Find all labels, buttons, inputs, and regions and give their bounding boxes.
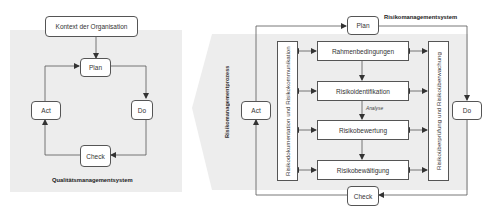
process-step-risikobewertung: Risikobewertung — [317, 120, 409, 140]
right-do-label: Do — [463, 107, 471, 114]
left-act-label: Act — [41, 107, 50, 114]
process-vertical-label: Risikomanagementprozess — [221, 60, 233, 144]
process-step-label: Risikobewertung — [339, 127, 387, 134]
right-diagram-title: Risikomanagementsystem — [384, 14, 457, 20]
process-step-rahmenbedingungen: Rahmenbedingungen — [317, 41, 409, 61]
process-step-label: Risikoidentifikation — [336, 88, 390, 95]
process-step-label: Risikobewältigung — [337, 167, 389, 174]
right-check-label: Check — [354, 193, 372, 200]
process-step-risikoidentifikation: Risikoidentifikation — [317, 81, 409, 101]
left-side-box-label: Risikodokumentation und Risikokommunikat… — [278, 42, 298, 180]
left-plan-box: Plan — [80, 58, 111, 77]
right-act-box: Act — [241, 101, 271, 120]
left-do-box: Do — [131, 100, 153, 120]
left-act-box: Act — [31, 101, 61, 120]
right-check-box: Check — [347, 186, 379, 206]
right-act-label: Act — [251, 107, 260, 114]
process-step-risikobewaeltigung: Risikobewältigung — [317, 160, 409, 180]
right-side-box-label: Risikoüberprüfung und Risikoüberwachung — [429, 42, 449, 180]
context-box-label: Kontext der Organisation — [56, 23, 128, 30]
right-do-box: Do — [452, 101, 482, 120]
process-step-label: Rahmenbedingungen — [332, 48, 394, 55]
left-check-box: Check — [80, 145, 111, 167]
left-diagram-title: Qualitätsmanagementsystem — [52, 177, 133, 183]
right-side-box: Risikoüberprüfung und Risikoüberwachung — [428, 41, 449, 181]
left-check-label: Check — [86, 153, 104, 160]
right-plan-box: Plan — [347, 16, 379, 35]
left-do-label: Do — [138, 107, 146, 114]
left-side-box: Risikodokumentation und Risikokommunikat… — [277, 41, 298, 181]
context-box: Kontext der Organisation — [45, 16, 138, 37]
analysis-label: Analyse — [366, 106, 383, 111]
right-plan-label: Plan — [356, 22, 369, 29]
left-plan-label: Plan — [89, 64, 102, 71]
